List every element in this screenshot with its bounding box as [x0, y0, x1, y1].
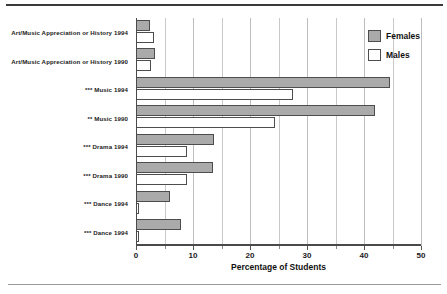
x-tick-major — [250, 246, 251, 250]
category-label: *** Music 1994 — [85, 86, 128, 93]
x-tick-major — [307, 246, 308, 250]
category-axis-labels: Art/Music Appreciation or History 1994Ar… — [0, 18, 132, 246]
legend-entry-males: Males — [368, 49, 420, 61]
x-tick-minor — [222, 246, 223, 249]
x-tick-minor — [336, 246, 337, 249]
bar-males — [136, 174, 187, 185]
category-label: ** Music 1990 — [87, 114, 128, 121]
legend-label-females: Females — [386, 31, 420, 41]
x-axis-title: Percentage of Students — [136, 262, 421, 272]
bar-group — [136, 218, 421, 247]
bar-females — [136, 105, 375, 116]
bar-males — [136, 60, 151, 71]
category-label: *** Dance 1994 — [84, 200, 128, 207]
bar-females — [136, 20, 150, 31]
bar-group — [136, 132, 421, 161]
legend-swatch-females-icon — [368, 30, 381, 42]
x-tick-major — [421, 246, 422, 250]
bar-males — [136, 146, 187, 157]
bar-females — [136, 162, 213, 173]
bar-females — [136, 48, 155, 59]
category-label: Art/Music Appreciation or History 1994 — [11, 29, 128, 36]
x-tick-label: 20 — [246, 251, 255, 260]
gridline — [421, 18, 422, 246]
legend-swatch-males-icon — [368, 49, 381, 61]
x-tick-label: 10 — [189, 251, 198, 260]
x-tick-label: 30 — [303, 251, 312, 260]
legend-label-males: Males — [386, 50, 410, 60]
category-label: *** Drama 1990 — [83, 171, 128, 178]
x-tick-minor — [393, 246, 394, 249]
x-tick-label: 40 — [360, 251, 369, 260]
y-axis-line — [136, 18, 137, 246]
category-label: *** Drama 1994 — [83, 143, 128, 150]
chart-figure: Art/Music Appreciation or History 1994Ar… — [0, 0, 447, 294]
x-tick-label: 0 — [134, 251, 138, 260]
chart-legend: Females Males — [368, 30, 420, 61]
top-divider-rule — [6, 4, 443, 6]
x-tick-label: 50 — [417, 251, 426, 260]
bar-group — [136, 189, 421, 218]
category-label: *** Dance 1994 — [84, 228, 128, 235]
bar-females — [136, 134, 214, 145]
x-tick-minor — [165, 246, 166, 249]
bar-group — [136, 161, 421, 190]
bar-females — [136, 191, 170, 202]
bar-group — [136, 75, 421, 104]
bottom-divider-rule — [8, 284, 441, 285]
category-label: Art/Music Appreciation or History 1990 — [11, 57, 128, 64]
legend-entry-females: Females — [368, 30, 420, 42]
x-tick-major — [364, 246, 365, 250]
x-tick-minor — [279, 246, 280, 249]
bar-males — [136, 117, 275, 128]
bar-males — [136, 32, 154, 43]
x-tick-major — [193, 246, 194, 250]
bar-males — [136, 89, 293, 100]
bar-females — [136, 77, 390, 88]
bar-group — [136, 104, 421, 133]
x-tick-major — [136, 246, 137, 250]
bar-females — [136, 219, 181, 230]
